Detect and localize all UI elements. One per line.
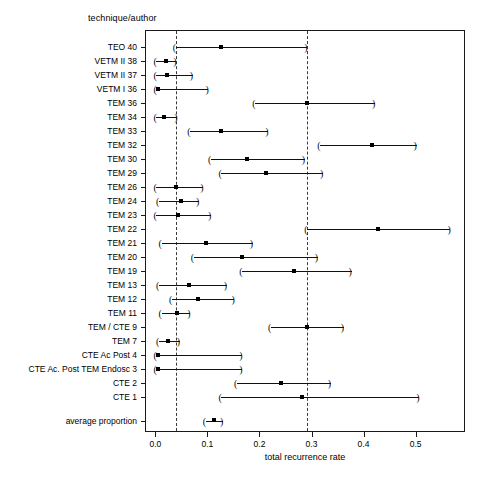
point-estimate-marker <box>179 199 183 203</box>
confidence-interval-line <box>190 131 268 132</box>
point-estimate-marker <box>219 129 223 133</box>
confidence-interval-line <box>320 145 416 146</box>
y-axis-label: VETM II 38 <box>94 57 137 66</box>
ci-upper-cap: ) <box>196 196 199 207</box>
point-estimate-marker <box>166 339 170 343</box>
x-axis-tick <box>155 432 156 437</box>
y-axis-label: CTE 1 <box>113 393 137 402</box>
confidence-interval-line <box>211 159 305 160</box>
forest-row: () <box>146 265 464 279</box>
forest-row: () <box>146 181 464 195</box>
point-estimate-marker <box>305 101 309 105</box>
ci-lower-cap: ( <box>317 140 320 151</box>
ci-upper-cap: ) <box>239 350 242 361</box>
column-header-technique-author: technique/author <box>88 13 157 23</box>
ci-upper-cap: ) <box>414 140 417 151</box>
forest-row: () <box>146 83 464 97</box>
ci-lower-cap: ( <box>218 168 221 179</box>
y-axis-label: TEM 29 <box>107 169 137 178</box>
forest-row: () <box>146 307 464 321</box>
data-rows: ()()()()()()()()()()()()()()()()()()()()… <box>146 31 464 431</box>
ci-lower-cap: ( <box>156 280 159 291</box>
confidence-interval-line <box>156 369 242 370</box>
confidence-interval-line <box>237 383 331 384</box>
ci-lower-cap: ( <box>304 224 307 235</box>
y-axis-label: TEM 34 <box>107 113 137 122</box>
ci-upper-cap: ) <box>416 392 419 403</box>
confidence-interval-line <box>156 89 208 90</box>
point-estimate-marker <box>176 213 180 217</box>
confidence-interval-line <box>194 257 318 258</box>
forest-row: () <box>146 125 464 139</box>
forest-plot-figure: technique/author TEO 40VETM II 38VETM II… <box>0 0 485 490</box>
y-axis-label: TEM 26 <box>107 183 137 192</box>
confidence-interval-line <box>221 173 322 174</box>
point-estimate-marker <box>264 171 268 175</box>
ci-lower-cap: ( <box>153 56 156 67</box>
point-estimate-marker <box>165 73 169 77</box>
confidence-interval-line <box>156 355 242 356</box>
y-axis-label: TEM / CTE 9 <box>88 323 137 332</box>
ci-lower-cap: ( <box>234 378 237 389</box>
y-axis-label: TEO 40 <box>108 43 137 52</box>
ci-lower-cap: ( <box>156 336 159 347</box>
ci-lower-cap: ( <box>208 154 211 165</box>
forest-row: () <box>146 139 464 153</box>
ci-upper-cap: ) <box>205 84 208 95</box>
y-axis-label: TEM 13 <box>107 281 137 290</box>
point-estimate-marker <box>370 143 374 147</box>
ci-upper-cap: ) <box>250 238 253 249</box>
forest-row: () <box>146 55 464 69</box>
forest-row: () <box>146 195 464 209</box>
x-axis-tick-label: 0.5 <box>410 439 422 449</box>
ci-lower-cap: ( <box>187 126 190 137</box>
point-estimate-marker <box>187 283 191 287</box>
point-estimate-marker <box>305 325 309 329</box>
ci-lower-cap: ( <box>268 322 271 333</box>
ci-upper-cap: ) <box>447 224 450 235</box>
forest-row: () <box>146 111 464 125</box>
forest-row: () <box>146 237 464 251</box>
forest-row: () <box>146 391 464 405</box>
y-axis-label: TEM 33 <box>107 127 137 136</box>
y-axis-label: TEM 20 <box>107 253 137 262</box>
x-axis-tick <box>259 432 260 437</box>
ci-upper-cap: ) <box>200 182 203 193</box>
ci-lower-cap: ( <box>239 266 242 277</box>
ci-upper-cap: ) <box>177 336 180 347</box>
forest-row: () <box>146 97 464 111</box>
ci-upper-cap: ) <box>239 364 242 375</box>
y-axis-label: CTE Ac. Post TEM Endosc 3 <box>29 365 138 374</box>
forest-row: () <box>146 377 464 391</box>
y-axis-labels: TEO 40VETM II 38VETM II 37VETM I 36TEM 3… <box>0 30 141 432</box>
confidence-interval-line <box>156 187 203 188</box>
x-axis-title: total recurrence rate <box>145 452 465 462</box>
point-estimate-marker <box>292 269 296 273</box>
ci-upper-cap: ) <box>328 378 331 389</box>
confidence-interval-line <box>255 103 375 104</box>
forest-row: () <box>146 153 464 167</box>
ci-upper-cap: ) <box>341 322 344 333</box>
plot-area: ()()()()()()()()()()()()()()()()()()()()… <box>145 30 465 432</box>
ci-upper-cap: ) <box>304 42 307 53</box>
point-estimate-marker <box>175 311 179 315</box>
y-axis-label: TEM 12 <box>107 295 137 304</box>
confidence-interval-line <box>156 75 192 76</box>
y-axis-label: VETM I 36 <box>97 85 137 94</box>
ci-upper-cap: ) <box>224 280 227 291</box>
forest-row: () <box>146 209 464 223</box>
y-axis-label: TEM 22 <box>107 225 137 234</box>
x-axis-tick <box>312 432 313 437</box>
point-estimate-marker <box>164 59 168 63</box>
y-axis-label: TEM 7 <box>112 337 137 346</box>
point-estimate-marker <box>156 87 160 91</box>
y-axis-label: TEM 32 <box>107 141 137 150</box>
ci-lower-cap: ( <box>153 182 156 193</box>
ci-upper-cap: ) <box>220 416 223 427</box>
y-axis-label: CTE 2 <box>113 379 137 388</box>
x-axis-tick <box>416 432 417 437</box>
ci-lower-cap: ( <box>191 252 194 263</box>
x-axis-tick-label: 0.4 <box>358 439 370 449</box>
ci-lower-cap: ( <box>203 416 206 427</box>
forest-row: () <box>146 363 464 377</box>
